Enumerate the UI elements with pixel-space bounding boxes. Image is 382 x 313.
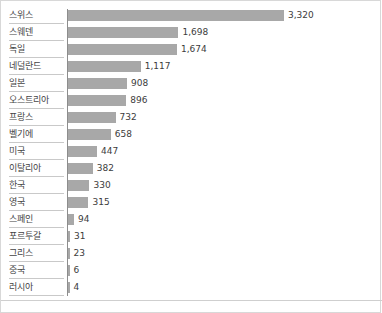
bar-row: 스페인94	[1, 211, 382, 228]
bar-track: 6	[68, 265, 378, 276]
bar-value-label: 31	[70, 230, 85, 243]
bar-row: 러시아4	[1, 279, 382, 296]
bar-track: 1,117	[68, 61, 378, 72]
bar-value-label: 4	[70, 281, 80, 294]
bar	[68, 44, 177, 55]
bar-track: 1,698	[68, 27, 378, 38]
category-separator-rule	[9, 295, 64, 296]
bar	[68, 95, 126, 106]
bar-value-label: 1,117	[141, 60, 171, 73]
bar-value-label: 908	[127, 77, 148, 90]
bar-value-label: 1,674	[177, 43, 207, 56]
bar	[68, 10, 284, 21]
bar-track: 658	[68, 129, 378, 140]
bar	[68, 146, 97, 157]
bar-row: 네덜란드1,117	[1, 58, 382, 75]
bar-value-label: 315	[88, 196, 109, 209]
bar-track: 23	[68, 248, 378, 259]
category-label: 스페인	[9, 211, 65, 227]
bar-track: 896	[68, 95, 378, 106]
category-label: 미국	[9, 143, 65, 159]
bar-row: 중국6	[1, 262, 382, 279]
bar-value-label: 1,698	[178, 26, 208, 39]
category-label: 러시아	[9, 279, 65, 295]
bar	[68, 61, 141, 72]
bar-row: 오스트리아896	[1, 92, 382, 109]
category-label: 스웨덴	[9, 24, 65, 40]
category-label: 프랑스	[9, 109, 65, 125]
bar	[68, 78, 127, 89]
category-label: 한국	[9, 177, 65, 193]
bar-row: 스웨덴1,698	[1, 24, 382, 41]
bar-row: 포르투갈31	[1, 228, 382, 245]
bar-row: 독일1,674	[1, 41, 382, 58]
bar-value-label: 447	[97, 145, 118, 158]
category-label: 오스트리아	[9, 92, 65, 108]
bar	[68, 180, 89, 191]
bar-value-label: 94	[74, 213, 89, 226]
bar-row: 영국315	[1, 194, 382, 211]
plot-area: 스위스3,320스웨덴1,698독일1,674네덜란드1,117일본908오스트…	[1, 7, 382, 299]
category-label: 포르투갈	[9, 228, 65, 244]
bar-row: 일본908	[1, 75, 382, 92]
bar-value-label: 896	[126, 94, 147, 107]
bar-track: 447	[68, 146, 378, 157]
bar-track: 31	[68, 231, 378, 242]
bar-rows-container: 스위스3,320스웨덴1,698독일1,674네덜란드1,117일본908오스트…	[1, 7, 382, 296]
bar-value-label: 732	[116, 111, 137, 124]
bar-track: 732	[68, 112, 378, 123]
bar	[68, 129, 111, 140]
bar-track: 315	[68, 197, 378, 208]
bar-value-label: 330	[89, 179, 110, 192]
bar-track: 1,674	[68, 44, 378, 55]
bar-row: 이탈리아382	[1, 160, 382, 177]
category-label: 그리스	[9, 245, 65, 261]
category-label: 이탈리아	[9, 160, 65, 176]
bar-track: 94	[68, 214, 378, 225]
bar-track: 3,320	[68, 10, 378, 21]
bar	[68, 112, 116, 123]
bar-row: 스위스3,320	[1, 7, 382, 24]
bar-track: 330	[68, 180, 378, 191]
bar-value-label: 382	[93, 162, 114, 175]
bar	[68, 197, 88, 208]
bar-track: 382	[68, 163, 378, 174]
bar-row: 한국330	[1, 177, 382, 194]
bottom-border-rule	[1, 300, 382, 301]
bar-value-label: 6	[70, 264, 80, 277]
bar-row: 프랑스732	[1, 109, 382, 126]
bar-track: 4	[68, 282, 378, 293]
bar	[68, 27, 178, 38]
category-label: 벨기에	[9, 126, 65, 142]
category-label: 스위스	[9, 7, 65, 23]
bar-row: 미국447	[1, 143, 382, 160]
category-label: 영국	[9, 194, 65, 210]
bar-value-label: 23	[70, 247, 85, 260]
bar-value-label: 658	[111, 128, 132, 141]
bar-value-label: 3,320	[284, 9, 314, 22]
bar	[68, 163, 93, 174]
category-label: 독일	[9, 41, 65, 57]
category-label: 네덜란드	[9, 58, 65, 74]
bar-row: 그리스23	[1, 245, 382, 262]
category-label: 중국	[9, 262, 65, 278]
bar-track: 908	[68, 78, 378, 89]
bar-row: 벨기에658	[1, 126, 382, 143]
category-label: 일본	[9, 75, 65, 91]
